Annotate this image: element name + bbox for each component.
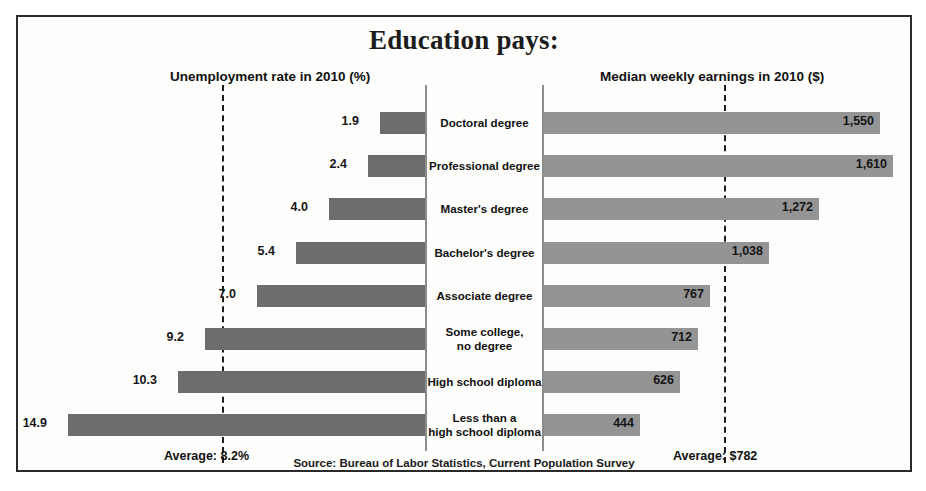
category-label: Bachelor's degree bbox=[427, 234, 542, 272]
bar-row: 14.9Less than ahigh school diploma444 bbox=[18, 406, 910, 444]
source-note: Source: Bureau of Labor Statistics, Curr… bbox=[18, 457, 910, 469]
unemployment-value-label: 9.2 bbox=[167, 330, 184, 344]
earnings-value-label: 1,272 bbox=[767, 200, 813, 214]
unemployment-value-label: 14.9 bbox=[23, 416, 47, 430]
chart-frame: Education pays: Unemployment rate in 201… bbox=[16, 15, 912, 472]
category-label: Doctoral degree bbox=[427, 104, 542, 142]
unemployment-value-label: 7.0 bbox=[219, 287, 236, 301]
unemployment-bar bbox=[68, 414, 425, 436]
category-label: Some college,no degree bbox=[427, 320, 542, 358]
earnings-value-label: 626 bbox=[628, 373, 674, 387]
bar-row: 10.3High school diploma626 bbox=[18, 363, 910, 401]
earnings-value-label: 712 bbox=[646, 330, 692, 344]
unemployment-bar bbox=[329, 198, 425, 220]
earnings-value-label: 1,038 bbox=[717, 244, 763, 258]
unemployment-value-label: 1.9 bbox=[342, 114, 359, 128]
earnings-value-label: 1,550 bbox=[828, 114, 874, 128]
category-label: Associate degree bbox=[427, 277, 542, 315]
unemployment-bar bbox=[368, 155, 425, 177]
bar-row: 5.4Bachelor's degree1,038 bbox=[18, 234, 910, 272]
unemployment-bar bbox=[178, 371, 425, 393]
unemployment-bar bbox=[296, 242, 425, 264]
unemployment-bar bbox=[257, 285, 425, 307]
earnings-value-label: 1,610 bbox=[841, 157, 887, 171]
bar-row: 1.9Doctoral degree1,550 bbox=[18, 104, 910, 142]
unemployment-value-label: 5.4 bbox=[258, 244, 275, 258]
category-label: Master's degree bbox=[427, 190, 542, 228]
category-label: Professional degree bbox=[427, 147, 542, 185]
earnings-value-label: 767 bbox=[658, 287, 704, 301]
category-label: High school diploma bbox=[427, 363, 542, 401]
unemployment-bar bbox=[380, 112, 425, 134]
earnings-value-label: 444 bbox=[588, 416, 634, 430]
bar-row: 9.2Some college,no degree712 bbox=[18, 320, 910, 358]
unemployment-bar bbox=[205, 328, 425, 350]
unemployment-value-label: 10.3 bbox=[133, 373, 157, 387]
bar-row: 7.0Associate degree767 bbox=[18, 277, 910, 315]
unemployment-value-label: 2.4 bbox=[330, 157, 347, 171]
unemployment-value-label: 4.0 bbox=[291, 200, 308, 214]
bar-row: 4.0Master's degree1,272 bbox=[18, 190, 910, 228]
plot-area: 1.9Doctoral degree1,5502.4Professional d… bbox=[18, 17, 910, 470]
category-label: Less than ahigh school diploma bbox=[427, 406, 542, 444]
bar-row: 2.4Professional degree1,610 bbox=[18, 147, 910, 185]
